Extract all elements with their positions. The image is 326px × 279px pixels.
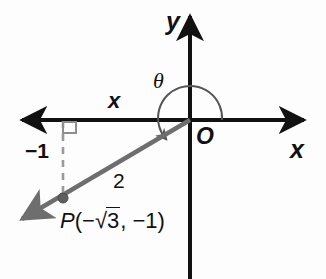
point-p-dot bbox=[58, 193, 68, 203]
hypotenuse-label: 2 bbox=[113, 170, 125, 191]
y-axis-label: y bbox=[166, 9, 180, 34]
point-p-close-paren: ) bbox=[158, 208, 165, 233]
x-leg-label: x bbox=[108, 90, 120, 112]
point-p-label: P(−√3, −1) bbox=[60, 209, 165, 232]
point-p-y-value: −1 bbox=[132, 208, 157, 233]
origin-label: O bbox=[196, 125, 214, 148]
right-angle-marker-icon bbox=[63, 122, 76, 133]
point-p-open-paren: ( bbox=[75, 208, 82, 233]
point-p-name: P bbox=[60, 208, 75, 233]
point-p-separator: , bbox=[120, 208, 132, 233]
theta-label: θ bbox=[153, 70, 164, 92]
point-p-radicand: 3 bbox=[106, 207, 120, 233]
terminal-ray bbox=[22, 120, 190, 219]
math-diagram-figure: y x x O θ −1 2 P(−√3, −1) bbox=[0, 0, 326, 279]
x-axis-label: x bbox=[290, 137, 304, 162]
vertical-leg-label: −1 bbox=[25, 140, 49, 161]
point-p-sqrt: √3 bbox=[95, 209, 120, 232]
point-p-x-sign: − bbox=[82, 208, 95, 233]
